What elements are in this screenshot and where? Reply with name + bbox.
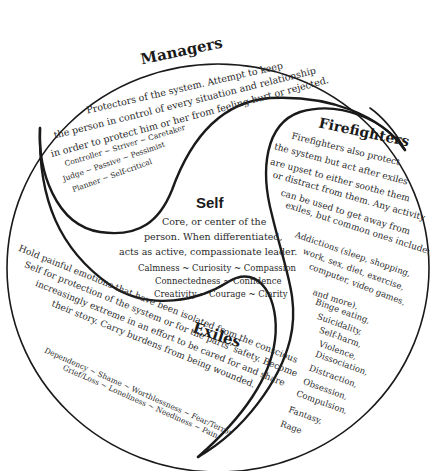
self-quality-line-2: Connectedness ~ Confidence bbox=[155, 277, 282, 286]
self-quality-line-3: Creativity ~ Courage ~ Clarity bbox=[154, 290, 288, 299]
self-description-line-2: person. When differentiated, bbox=[144, 232, 282, 242]
ifs-diagram: Managers Protectors of the system. Attem… bbox=[0, 0, 431, 471]
self-quality-line-1: Calmness ~ Curiosity ~ Compassion bbox=[138, 264, 296, 273]
self-description-line-3: acts as active, compassionate leader. bbox=[119, 247, 297, 257]
self-description-line-1: Core, or center of the bbox=[162, 217, 266, 227]
self-title: Self bbox=[196, 195, 224, 210]
